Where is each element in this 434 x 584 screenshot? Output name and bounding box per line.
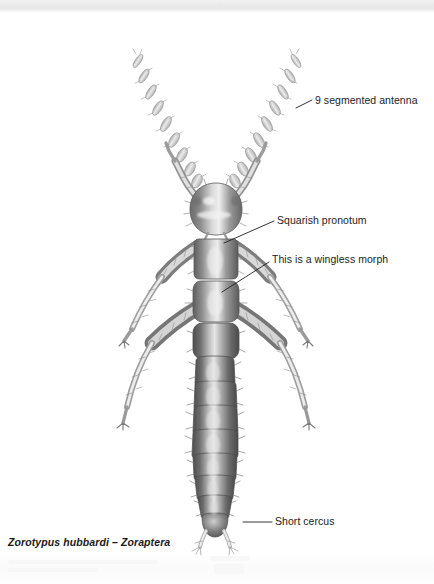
pronotum	[186, 239, 246, 279]
cercus-right	[224, 531, 238, 555]
leg-hindleg-left	[117, 307, 199, 430]
figure-page: · ·	[0, 0, 434, 584]
annotation-label-cercus: Short cercus	[275, 515, 335, 527]
cercus-left	[192, 531, 206, 555]
antenna-left	[131, 49, 206, 190]
scan-footer-residue	[0, 554, 434, 584]
mesothorax	[185, 281, 247, 322]
antenna-right	[226, 49, 303, 190]
caption-separator: –	[109, 536, 121, 548]
metathorax	[187, 323, 245, 359]
annotation-label-antenna: 9 segmented antenna	[315, 94, 418, 106]
insect-illustration	[0, 11, 434, 556]
scan-header-ghost-text: · ·	[0, 0, 434, 11]
scan-header-strip: · ·	[0, 0, 434, 11]
caption-species-name: Zorotypus hubbardi	[8, 536, 109, 548]
annotation-label-pronotum: Squarish pronotum	[277, 214, 367, 226]
figure-caption: Zorotypus hubbardi – Zoraptera	[8, 536, 170, 548]
leg-hindleg-right	[233, 307, 315, 430]
abdomen	[185, 356, 245, 537]
annotation-label-wingless-morph: This is a wingless morph	[272, 253, 388, 265]
caption-order-name: Zoraptera	[121, 536, 170, 548]
